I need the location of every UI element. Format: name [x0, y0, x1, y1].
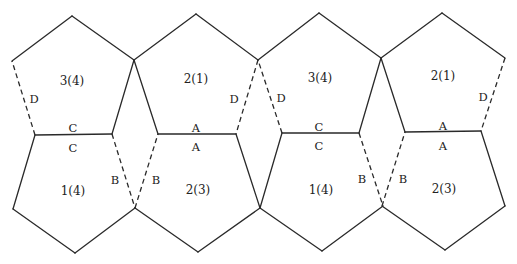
edge-solid: [442, 13, 505, 58]
face-label: 3(4): [60, 74, 85, 88]
fold-edge-dashed: [359, 133, 383, 206]
edge-label-a: A: [438, 119, 448, 133]
edge-solid: [260, 133, 282, 208]
face-label: 1(4): [309, 183, 334, 197]
edge-solid: [12, 16, 72, 61]
edge-solid: [13, 135, 35, 209]
edge-label-a: A: [191, 121, 201, 135]
edge-solid: [322, 206, 383, 251]
edge-solid: [75, 208, 135, 253]
edge-solid: [134, 14, 196, 60]
edge-solid: [112, 60, 134, 134]
edge-label-c: C: [315, 120, 324, 134]
face-label: 3(4): [308, 71, 333, 85]
edge-solid: [72, 16, 134, 60]
edge-label-c: C: [69, 141, 78, 155]
edge-solid: [382, 206, 445, 250]
edge-solid: [134, 60, 158, 134]
edge-solid: [196, 14, 258, 60]
pentagon-net-diagram: CD3(4)DA2(1)CD3(4)DA2(1)CB1(4)AB2(3)CB1(…: [0, 0, 517, 264]
edge-label-c: C: [315, 139, 324, 153]
edge-solid: [198, 208, 260, 252]
edge-solid: [381, 58, 405, 132]
edge-solid: [381, 13, 442, 58]
face-label: 2(3): [432, 182, 457, 196]
edges-layer: [12, 13, 505, 253]
edge-label-b: B: [399, 172, 407, 186]
face-label: 1(4): [61, 184, 86, 198]
edge-label-b: B: [152, 173, 160, 187]
edge-label-a: A: [438, 139, 448, 153]
fold-edge-dashed: [382, 132, 405, 206]
edge-solid: [481, 131, 505, 206]
edge-solid: [236, 134, 260, 208]
pentagon-net-svg: CD3(4)DA2(1)CD3(4)DA2(1)CB1(4)AB2(3)CB1(…: [0, 0, 517, 264]
fold-edge-dashed: [135, 134, 158, 208]
edge-label-d: D: [229, 92, 238, 106]
edge-label-d: D: [478, 90, 487, 104]
edge-label-b: B: [111, 173, 119, 187]
edge-solid: [359, 58, 381, 133]
edge-label-a: A: [191, 140, 201, 154]
edge-solid: [319, 13, 381, 58]
edge-label-d: D: [276, 91, 285, 105]
face-label: 2(3): [186, 183, 211, 197]
face-label: 2(1): [184, 72, 209, 86]
fold-edge-dashed: [112, 134, 135, 208]
edge-solid: [445, 206, 505, 250]
edge-solid: [135, 208, 198, 252]
fold-edge-dashed: [236, 60, 258, 134]
edge-label-c: C: [69, 121, 78, 135]
face-label: 2(1): [431, 69, 456, 83]
edge-label-b: B: [358, 172, 366, 186]
edge-solid: [258, 13, 319, 60]
edge-solid: [260, 208, 322, 251]
edge-label-d: D: [29, 92, 38, 106]
edge-solid: [13, 209, 75, 253]
labels-layer: CD3(4)DA2(1)CD3(4)DA2(1)CB1(4)AB2(3)CB1(…: [29, 69, 487, 198]
